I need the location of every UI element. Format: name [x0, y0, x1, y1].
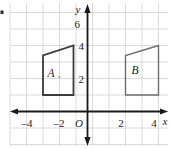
grid-lines [10, 3, 168, 146]
coordinate-figure: y x O 6 4 2 –4 –2 2 4 A B [0, 0, 170, 149]
y-axis [84, 4, 90, 146]
y-tick-label-6: 6 [75, 18, 81, 30]
x-tick-label-4: 4 [151, 117, 157, 129]
x-axis-right-arrow-icon [160, 108, 168, 114]
y-axis-label: y [75, 3, 81, 15]
x-tick-label-neg4: –4 [21, 117, 34, 129]
interior-dot-icon [59, 76, 61, 78]
x-tick-label-neg2: –2 [53, 117, 65, 129]
left-edge-mark-icon [1, 11, 4, 15]
origin-label: O [75, 117, 83, 129]
x-axis-left-arrow-icon [10, 108, 18, 114]
shape-b-label: B [131, 64, 138, 76]
coordinate-plane-svg: y x O 6 4 2 –4 –2 2 4 A B [0, 0, 170, 149]
x-axis [10, 108, 168, 114]
y-tick-label-4: 4 [79, 40, 85, 52]
x-tick-label-2: 2 [118, 117, 124, 129]
y-tick-label-2: 2 [79, 73, 85, 85]
y-axis-up-arrow-icon [84, 4, 90, 13]
shape-a-label: A [46, 67, 55, 79]
x-axis-label: x [162, 116, 168, 127]
